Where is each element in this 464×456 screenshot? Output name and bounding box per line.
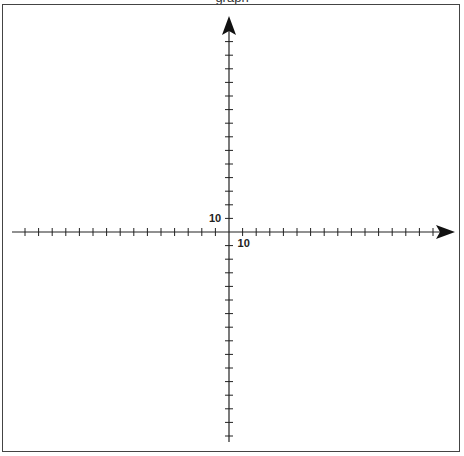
coordinate-plane: 10 10 [0, 0, 464, 456]
x-axis [12, 225, 455, 239]
y-axis-tick-label: 10 [209, 212, 221, 224]
x-axis-tick-label: 10 [238, 237, 250, 249]
y-axis [222, 16, 236, 442]
